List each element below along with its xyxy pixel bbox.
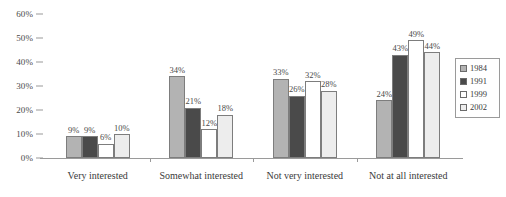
legend-item[interactable]: 1984: [460, 62, 496, 75]
bar-value-label: 28%: [321, 80, 337, 89]
bar-group-bars: 24%43%49%44%: [376, 14, 440, 158]
bar-column: 34%: [169, 14, 185, 158]
bar[interactable]: [201, 129, 217, 158]
bar-column: 10%: [114, 14, 130, 158]
x-axis-category-label: Very interested: [68, 170, 128, 181]
y-axis-tick-label: 60%: [16, 9, 33, 19]
x-axis-line: [40, 158, 463, 159]
bar-value-label: 43%: [392, 44, 408, 53]
legend-item[interactable]: 2002: [460, 101, 496, 114]
y-axis-tick-mark: [36, 134, 43, 135]
bar-column: 43%: [392, 14, 408, 158]
y-axis-tick-label: 40%: [16, 57, 33, 67]
bar[interactable]: [392, 55, 408, 158]
bar-column: 18%: [217, 14, 233, 158]
bar-group-bars: 9%9%6%10%: [66, 14, 130, 158]
bar-column: 28%: [321, 14, 337, 158]
legend-label: 2002: [470, 103, 487, 112]
bar-value-label: 18%: [217, 104, 233, 113]
bar[interactable]: [289, 96, 305, 158]
bar-column: 24%: [376, 14, 392, 158]
x-axis-category-label: Not very interested: [266, 170, 343, 181]
y-axis-tick-label: 20%: [16, 105, 33, 115]
bar-column: 49%: [408, 14, 424, 158]
bar-column: 12%: [201, 14, 217, 158]
legend-label: 1984: [470, 64, 487, 73]
x-axis-group-tick: [150, 158, 151, 162]
bar-column: 9%: [66, 14, 82, 158]
bar-value-label: 32%: [305, 71, 321, 80]
bar[interactable]: [114, 134, 130, 158]
bar-column: 26%: [289, 14, 305, 158]
bar[interactable]: [321, 91, 337, 158]
bar-value-label: 33%: [273, 68, 289, 77]
bar[interactable]: [66, 136, 82, 158]
y-axis-tick-mark: [36, 14, 43, 15]
bar[interactable]: [305, 81, 321, 158]
y-axis-tick-label: 0%: [21, 153, 33, 163]
bar[interactable]: [185, 108, 201, 158]
bar-group-bars: 33%26%32%28%: [273, 14, 337, 158]
bar[interactable]: [217, 115, 233, 158]
x-axis-category-label: Not at all interested: [369, 170, 448, 181]
bar[interactable]: [82, 136, 98, 158]
bar-chart: 0%10%20%30%40%50%60% 9%9%6%10%34%21%12%1…: [0, 0, 506, 197]
legend-label: 1999: [470, 90, 487, 99]
legend-label: 1991: [470, 77, 487, 86]
y-axis-tick-mark: [36, 110, 43, 111]
legend: 1984199119992002: [455, 58, 500, 118]
legend-swatch-icon: [460, 104, 467, 111]
bar-value-label: 6%: [100, 133, 111, 142]
bar-group-bars: 34%21%12%18%: [169, 14, 233, 158]
bar-group: 9%9%6%10%: [66, 14, 130, 158]
x-axis-group-tick: [253, 158, 254, 162]
bar-value-label: 34%: [169, 66, 185, 75]
y-axis-tick-mark: [36, 62, 43, 63]
bar-value-label: 9%: [84, 126, 95, 135]
bar-group: 24%43%49%44%: [376, 14, 440, 158]
y-axis-tick-label: 30%: [16, 81, 33, 91]
x-axis-category-label: Somewhat interested: [159, 170, 243, 181]
y-axis-tick-mark: [36, 38, 43, 39]
bar-column: 21%: [185, 14, 201, 158]
x-axis-group-tick: [357, 158, 358, 162]
y-axis-tick-label: 10%: [16, 129, 33, 139]
y-axis-tick-mark: [36, 86, 43, 87]
bar-value-label: 24%: [376, 90, 392, 99]
bar-column: 6%: [98, 14, 114, 158]
bar-column: 32%: [305, 14, 321, 158]
bar-value-label: 21%: [185, 97, 201, 106]
legend-swatch-icon: [460, 91, 467, 98]
bar[interactable]: [273, 79, 289, 158]
legend-item[interactable]: 1999: [460, 88, 496, 101]
bar-value-label: 12%: [201, 119, 217, 128]
bar-value-label: 26%: [289, 85, 305, 94]
bar-value-label: 10%: [114, 124, 130, 133]
bar[interactable]: [424, 52, 440, 158]
legend-swatch-icon: [460, 78, 467, 85]
bar-value-label: 44%: [424, 42, 440, 51]
bar-group: 34%21%12%18%: [169, 14, 233, 158]
bar[interactable]: [169, 76, 185, 158]
bar-value-label: 49%: [408, 30, 424, 39]
bar[interactable]: [408, 40, 424, 158]
legend-swatch-icon: [460, 65, 467, 72]
bar[interactable]: [376, 100, 392, 158]
bar-column: 44%: [424, 14, 440, 158]
bar-value-label: 9%: [68, 126, 79, 135]
bar[interactable]: [98, 144, 114, 158]
y-axis: 0%10%20%30%40%50%60%: [0, 0, 46, 197]
bar-column: 9%: [82, 14, 98, 158]
y-axis-tick-label: 50%: [16, 33, 33, 43]
plot-area: 9%9%6%10%34%21%12%18%33%26%32%28%24%43%4…: [46, 14, 460, 158]
bar-group: 33%26%32%28%: [273, 14, 337, 158]
legend-item[interactable]: 1991: [460, 75, 496, 88]
bar-column: 33%: [273, 14, 289, 158]
